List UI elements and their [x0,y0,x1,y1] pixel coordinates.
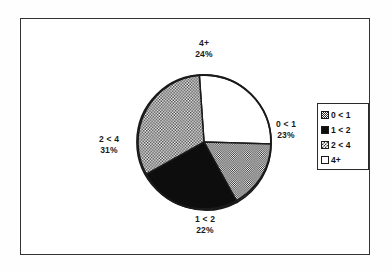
legend-label-1-to-2: 1 < 2 [331,125,351,135]
slice-label-4plus-name: 4+ [173,38,235,49]
legend-label-0-to-1: 0 < 1 [331,110,351,120]
legend-swatch-light-dot-icon [321,141,329,149]
slice-label-4plus: 4+ 24% [173,38,235,60]
legend-swatch-solid-black-icon [321,126,329,134]
legend-label-2-to-4: 2 < 4 [331,140,351,150]
legend-item-4plus: 4+ [321,153,368,167]
slice-label-1-to-2: 1 < 2 22% [172,214,238,236]
slice-label-2-to-4-name: 2 < 4 [78,134,140,145]
pie-chart-figure: 4+ 24% 0 < 1 23% 1 < 2 22% 2 < 4 31% 0 <… [0,0,391,271]
legend-swatch-white-icon [321,156,329,164]
legend-item-0-to-1: 0 < 1 [321,108,368,122]
legend-item-1-to-2: 1 < 2 [321,123,368,137]
slice-label-2-to-4: 2 < 4 31% [78,134,140,156]
slice-label-1-to-2-percent: 22% [172,225,238,236]
slice-label-1-to-2-name: 1 < 2 [172,214,238,225]
slice-label-0-to-1-percent: 23% [258,130,314,141]
slice-label-0-to-1-name: 0 < 1 [258,119,314,130]
legend-label-4plus: 4+ [331,155,341,165]
legend: 0 < 1 1 < 2 2 < 4 4+ [317,103,369,170]
slice-label-0-to-1: 0 < 1 23% [258,119,314,141]
legend-swatch-dense-dot-icon [321,111,329,119]
slice-label-2-to-4-percent: 31% [78,145,140,156]
legend-item-2-to-4: 2 < 4 [321,138,368,152]
slice-label-4plus-percent: 24% [173,49,235,60]
